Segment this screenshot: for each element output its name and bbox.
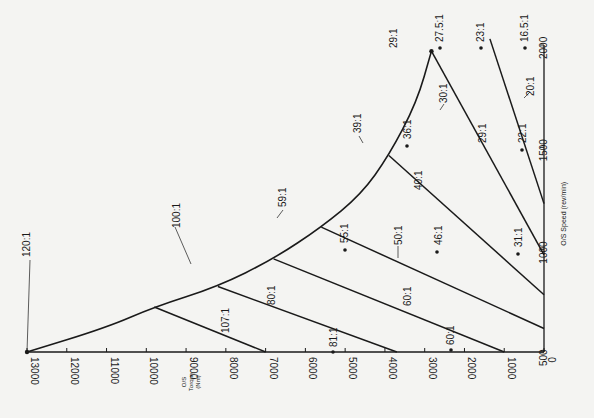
line-label: 40:1 <box>413 170 424 190</box>
data-point-dot <box>449 348 453 352</box>
axes: 0100020003000400050006000700080009000100… <box>27 36 568 391</box>
line-label: 80:1 <box>266 285 277 305</box>
labels: 120:1100:159:139:129:1107:180:160:150:14… <box>21 14 536 354</box>
line-label: 50:1 <box>393 225 404 245</box>
ratio-line <box>154 307 265 352</box>
envelope-end-dot <box>429 49 433 53</box>
ratio-line <box>490 39 544 204</box>
torque-speed-chart: 0100020003000400050006000700080009000100… <box>0 0 594 418</box>
speed-tick-label: 1500 <box>538 139 549 162</box>
point-label: 22:1 <box>517 123 528 143</box>
line-label: 30:1 <box>438 83 449 103</box>
speed-tick-label: 500 <box>538 349 549 366</box>
data-point-dot <box>520 148 524 152</box>
leader-line <box>359 136 363 143</box>
leader-line <box>277 210 283 218</box>
speed-axis-title: O/S Speed (rev/min) <box>560 182 568 246</box>
torque-axis-title: Torque <box>188 372 194 391</box>
point-label: 81:1 <box>328 327 339 347</box>
torque-tick-label: 5000 <box>347 357 358 380</box>
data-point-dot <box>331 350 335 354</box>
data-point-dot <box>523 46 527 50</box>
torque-axis-title: O/S <box>181 377 187 387</box>
torque-tick-label: 1000 <box>506 357 517 380</box>
data-point-dot <box>479 46 483 50</box>
torque-tick-label: 2000 <box>466 357 477 380</box>
point-label: 36:1 <box>402 119 413 139</box>
line-label: 60:1 <box>402 286 413 306</box>
torque-tick-label: 11000 <box>109 357 120 385</box>
line-label: 107:1 <box>220 308 231 333</box>
curve-label: 39:1 <box>352 113 363 133</box>
torque-tick-label: 10000 <box>148 357 159 385</box>
curve-label: 100:1 <box>171 203 182 228</box>
curve-label: 59:1 <box>277 187 288 207</box>
torque-tick-label: 6000 <box>307 357 318 380</box>
envelope-curve <box>27 51 431 352</box>
ratio-line <box>218 287 397 352</box>
speed-tick-label: 2000 <box>538 36 549 59</box>
torque-tick-label: 7000 <box>268 357 279 380</box>
data-point-dot <box>343 248 347 252</box>
point-label: 60:1 <box>445 325 456 345</box>
data-point-dot <box>405 144 409 148</box>
leader-line <box>175 227 191 264</box>
point-label: 27.5:1 <box>434 14 445 42</box>
data-point-dot <box>438 46 442 50</box>
torque-tick-label: 13000 <box>29 357 40 385</box>
torque-axis-title: (Nm) <box>195 375 201 388</box>
leader-line <box>27 260 30 352</box>
line-label: 20:1 <box>525 76 536 96</box>
torque-tick-label: 4000 <box>387 357 398 380</box>
point-label: 31:1 <box>513 227 524 247</box>
point-label: 23:1 <box>475 22 486 42</box>
curve-label: 120:1 <box>21 232 32 257</box>
torque-tick-label: 8000 <box>228 357 239 380</box>
curve-label: 29:1 <box>388 28 399 48</box>
line-label: 29:1 <box>477 123 488 143</box>
speed-tick-label: 1000 <box>538 241 549 264</box>
torque-tick-label: 12000 <box>69 357 80 385</box>
ratio-line <box>274 259 505 352</box>
leader-line <box>440 104 444 110</box>
point-label: 46:1 <box>433 225 444 245</box>
data-point-dot <box>516 252 520 256</box>
point-label: 55:1 <box>339 223 350 243</box>
data-point-dot <box>435 250 439 254</box>
torque-tick-label: 3000 <box>427 357 438 380</box>
point-label: 16.5:1 <box>519 14 530 42</box>
